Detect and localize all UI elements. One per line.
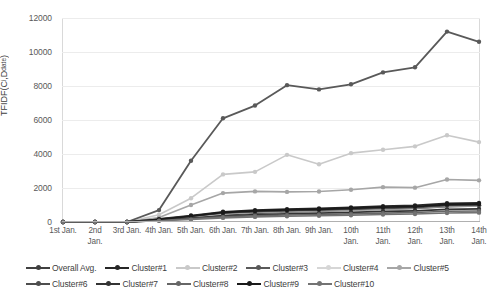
legend-marker-icon xyxy=(387,263,411,272)
data-point xyxy=(381,205,385,209)
data-point xyxy=(317,162,321,166)
legend-label: Cluster#4 xyxy=(343,263,378,273)
chart-legend: Overall Avg.Cluster#1Cluster#2Cluster#3C… xyxy=(26,261,478,290)
legend-item-cluster-2[interactable]: Cluster#2 xyxy=(176,261,237,274)
legend-marker-icon xyxy=(308,279,332,288)
data-point xyxy=(221,172,225,176)
legend-item-cluster-6[interactable]: Cluster#6 xyxy=(26,277,87,290)
legend-marker-icon xyxy=(317,263,341,272)
data-point xyxy=(413,212,417,216)
data-point xyxy=(381,148,385,152)
data-point xyxy=(413,204,417,208)
data-point xyxy=(253,209,257,213)
series-cluster-3 xyxy=(61,29,481,224)
legend-label: Cluster#1 xyxy=(131,263,166,273)
data-point xyxy=(253,170,257,174)
legend-item-cluster-5[interactable]: Cluster#5 xyxy=(387,261,448,274)
data-point xyxy=(349,206,353,210)
legend-label: Cluster#5 xyxy=(413,263,448,273)
data-point xyxy=(477,210,481,214)
data-point xyxy=(317,207,321,211)
legend-label: Cluster#7 xyxy=(122,279,157,289)
data-point xyxy=(285,214,289,218)
data-point xyxy=(221,216,225,220)
x-tick-label: 10th Jan. xyxy=(343,226,358,247)
y-tick-label: 6000 xyxy=(33,115,52,125)
data-point xyxy=(189,159,193,163)
data-point xyxy=(253,215,257,219)
data-point xyxy=(477,202,481,206)
plot-area xyxy=(62,18,480,222)
legend-item-cluster-3[interactable]: Cluster#3 xyxy=(246,261,307,274)
data-point xyxy=(285,153,289,157)
legend-item-cluster-1[interactable]: Cluster#1 xyxy=(105,261,166,274)
data-point xyxy=(349,82,353,86)
data-point xyxy=(221,116,225,120)
data-point xyxy=(189,203,193,207)
legend-label: Overall Avg. xyxy=(52,263,96,273)
data-point xyxy=(445,202,449,206)
data-point xyxy=(317,87,321,91)
legend-label: Cluster#9 xyxy=(263,279,298,289)
legend-marker-icon xyxy=(176,263,200,272)
y-tick-label: 4000 xyxy=(33,149,52,159)
data-point xyxy=(317,214,321,218)
legend-item-overall-avg[interactable]: Overall Avg. xyxy=(26,261,96,274)
data-point xyxy=(157,208,161,212)
x-tick-label: 5th Jan. xyxy=(177,226,205,237)
data-point xyxy=(285,83,289,87)
data-point xyxy=(477,178,481,182)
x-tick-label: 6th Jan. xyxy=(209,226,237,237)
data-point xyxy=(445,133,449,137)
legend-marker-icon xyxy=(105,263,129,272)
x-tick-label: 12th Jan. xyxy=(407,226,422,247)
legend-label: Cluster#6 xyxy=(52,279,87,289)
legend-item-cluster-4[interactable]: Cluster#4 xyxy=(317,261,378,274)
y-tick-label: 2000 xyxy=(33,183,52,193)
data-point xyxy=(445,29,449,33)
x-tick-label: 8th Jan. xyxy=(273,226,301,237)
data-point xyxy=(477,40,481,44)
data-point xyxy=(413,185,417,189)
data-point xyxy=(445,177,449,181)
data-point xyxy=(477,140,481,144)
legend-marker-icon xyxy=(26,263,50,272)
legend-marker-icon xyxy=(246,263,270,272)
legend-label: Cluster#10 xyxy=(334,279,374,289)
series-layer xyxy=(62,18,480,222)
legend-item-cluster-9[interactable]: Cluster#9 xyxy=(237,277,298,290)
y-tick-label: 12000 xyxy=(29,13,52,23)
y-axis-tick-labels: 020004000600080001000012000 xyxy=(0,18,58,222)
data-point xyxy=(381,185,385,189)
data-point xyxy=(349,188,353,192)
y-tick-label: 8000 xyxy=(33,81,52,91)
data-point xyxy=(413,65,417,69)
data-point xyxy=(285,208,289,212)
x-tick-label: 2nd Jan. xyxy=(88,226,103,247)
data-point xyxy=(381,212,385,216)
x-tick-label: 9th Jan. xyxy=(305,226,333,237)
legend-item-cluster-7[interactable]: Cluster#7 xyxy=(96,277,157,290)
data-point xyxy=(445,211,449,215)
legend-item-cluster-10[interactable]: Cluster#10 xyxy=(308,277,374,290)
data-point xyxy=(413,144,417,148)
data-point xyxy=(253,103,257,107)
data-point xyxy=(381,70,385,74)
legend-marker-icon xyxy=(167,279,191,288)
data-point xyxy=(349,213,353,217)
legend-item-cluster-8[interactable]: Cluster#8 xyxy=(167,277,228,290)
x-tick-label: 13th Jan. xyxy=(439,226,454,247)
data-point xyxy=(285,190,289,194)
legend-marker-icon xyxy=(96,279,120,288)
x-tick-label: 1st Jan. xyxy=(49,226,76,237)
x-tick-label: 7th Jan. xyxy=(241,226,269,237)
data-point xyxy=(349,151,353,155)
legend-label: Cluster#3 xyxy=(272,263,307,273)
legend-marker-icon xyxy=(26,279,50,288)
legend-marker-icon xyxy=(237,279,261,288)
data-point xyxy=(189,196,193,200)
data-point xyxy=(317,189,321,193)
series-line xyxy=(63,32,479,222)
y-tick-label: 10000 xyxy=(29,47,52,57)
x-tick-label: 4th Jan. xyxy=(145,226,173,237)
